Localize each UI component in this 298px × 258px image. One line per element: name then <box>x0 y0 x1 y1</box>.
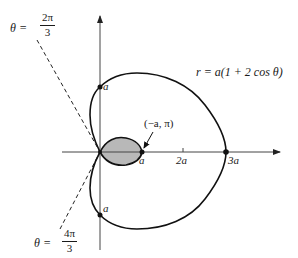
inner-loop <box>100 138 142 166</box>
top-point-label: a <box>103 81 109 92</box>
angle-upper-denominator: 3 <box>45 26 51 39</box>
angle-line-2pi-3 <box>37 40 100 152</box>
point-annotation-label: (−a, π) <box>144 118 173 129</box>
limacon-diagram <box>0 0 298 258</box>
annotation-arrow <box>144 132 153 148</box>
angle-upper-theta: θ = <box>10 22 27 34</box>
angle-lower-theta: θ = <box>34 237 51 249</box>
angle-lower-denominator: 3 <box>67 242 73 255</box>
angle-upper-numerator: 2π <box>40 12 55 26</box>
bottom-point-label: a <box>103 203 109 214</box>
pole-origin <box>98 150 102 154</box>
point-top-a <box>98 85 103 90</box>
two-a-label: 2a <box>176 155 187 166</box>
angle-lower-numerator: 4π <box>62 228 77 242</box>
angle-upper-fraction: 2π 3 <box>40 12 55 38</box>
angle-lower-fraction: 4π 3 <box>62 228 77 254</box>
equation-label: r = a(1 + 2 cos θ) <box>196 66 283 78</box>
point-bottom-a <box>98 213 103 218</box>
three-a-label: 3a <box>228 155 239 166</box>
inner-tip-label: a <box>139 155 145 166</box>
